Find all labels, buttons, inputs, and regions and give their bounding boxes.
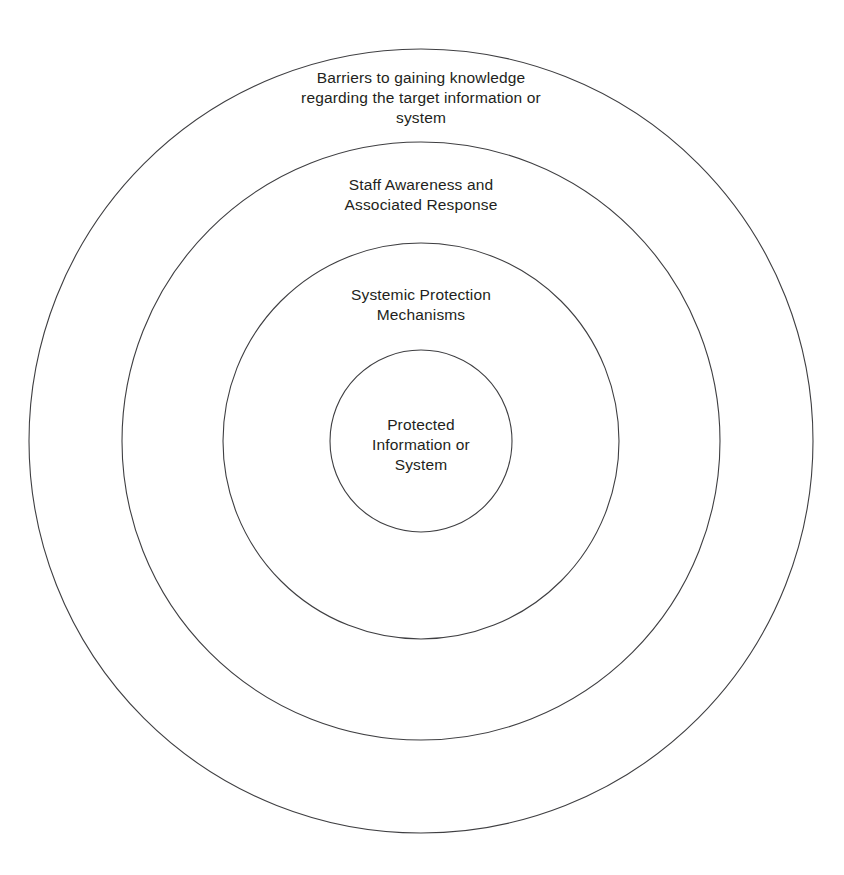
concentric-rings-diagram: Barriers to gaining knowledge regarding …	[0, 0, 844, 875]
ring-label-second: Staff Awareness and Associated Response	[256, 175, 586, 215]
ring-label-third: Systemic Protection Mechanisms	[286, 285, 556, 325]
ring-label-inner: Protected Information or System	[336, 415, 506, 475]
ring-label-outer: Barriers to gaining knowledge regarding …	[211, 68, 631, 128]
